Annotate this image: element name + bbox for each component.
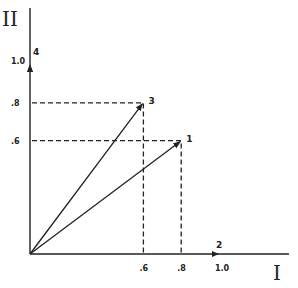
x-axis-title: I <box>273 261 281 285</box>
x-tick-label: .8 <box>177 264 186 273</box>
vectors <box>30 104 180 254</box>
unit-vector-4-arrowhead <box>27 65 33 72</box>
vector-3 <box>30 104 142 254</box>
x-axis-end-label: 2 <box>216 240 222 250</box>
axes <box>27 8 289 257</box>
vector-label-3: 3 <box>148 96 154 106</box>
y-axis-title: II <box>2 7 18 31</box>
vector-diagram: II I 4 2 .6.81.0.6.81.013 <box>0 0 298 288</box>
y-tick-label: .8 <box>11 99 20 108</box>
y-tick-label: 1.0 <box>11 57 26 66</box>
vector-label-1: 1 <box>186 134 192 144</box>
unit-vector-2-arrowhead <box>212 251 219 257</box>
y-tick-label: .6 <box>11 137 20 146</box>
vector-1 <box>30 142 180 254</box>
projection-guides <box>32 103 181 254</box>
x-tick-label: 1.0 <box>215 264 230 273</box>
x-tick-label: .6 <box>139 264 148 273</box>
y-axis-end-label: 4 <box>33 47 39 57</box>
